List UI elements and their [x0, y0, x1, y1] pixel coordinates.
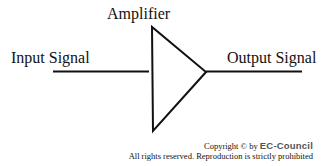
copyright-prefix: Copyright © by — [204, 141, 258, 151]
copyright-line: Copyright © by EC-Council — [204, 140, 313, 151]
amplifier-label: Amplifier — [107, 5, 170, 23]
output-signal-label: Output Signal — [227, 49, 316, 67]
amplifier-triangle — [152, 27, 206, 131]
rights-notice: All rights reserved. Reproduction is str… — [129, 151, 313, 161]
input-signal-label: Input Signal — [11, 49, 90, 67]
brand-logo-text: EC-Council — [260, 140, 313, 151]
